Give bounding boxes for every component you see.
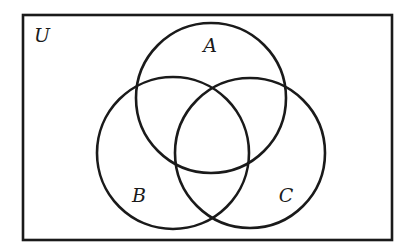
universe-label: U: [34, 24, 51, 46]
set-b-label: B: [131, 184, 146, 206]
set-a-label: A: [201, 34, 217, 56]
venn-diagram: U A B C: [0, 0, 416, 250]
set-c-label: C: [279, 184, 294, 206]
set-b-circle: [97, 77, 249, 229]
